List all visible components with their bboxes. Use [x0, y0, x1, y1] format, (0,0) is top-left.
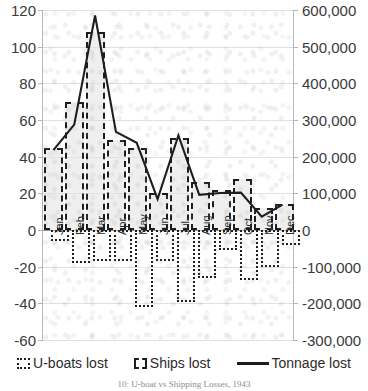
axis-tick: [293, 303, 298, 304]
axis-tick: [293, 120, 298, 121]
right-axis: 600,000500,000400,000300,000200,000100,0…: [298, 0, 368, 348]
left-axis-tick-label: -60: [14, 333, 36, 348]
axis-tick: [293, 47, 298, 48]
axis-tick: [293, 157, 298, 158]
left-axis-tick-label: 100: [11, 40, 36, 55]
month-label: Jul: [180, 221, 191, 235]
left-axis-tick-label: 20: [19, 186, 36, 201]
left-axis: 120100806040200-20-40-60: [0, 0, 40, 348]
combo-chart: 120100806040200-20-40-60 600,000500,0004…: [0, 0, 368, 391]
month-label: Aug: [201, 215, 212, 235]
axis-tick: [293, 193, 298, 194]
month-label: Sep: [222, 215, 233, 235]
right-axis-tick-label: -100,000: [302, 260, 361, 275]
figure-caption: 10: U-boat vs Shipping Losses, 1943: [0, 379, 368, 390]
right-axis-tick-label: -300,000: [302, 333, 361, 348]
dashed-square-icon: [134, 358, 147, 369]
gridline: [43, 340, 293, 341]
month-label: Apr: [117, 218, 128, 235]
right-axis-tick-label: 500,000: [302, 40, 356, 55]
right-axis-tick-label: 300,000: [302, 113, 356, 128]
month-label: Mar: [96, 216, 107, 235]
legend-label-uboats-lost: U-boats lost: [33, 356, 108, 370]
axis-tick: [293, 10, 298, 11]
legend-item-uboats-lost: U-boats lost: [17, 356, 108, 370]
solid-line-icon: [237, 362, 269, 365]
left-axis-tick-label: -20: [14, 260, 36, 275]
chart-legend: U-boats lost Ships lost Tonnage lost: [0, 352, 368, 374]
month-label: May: [138, 214, 149, 235]
plot-area: JanFebMarAprMayJunJulAugSepOctNovDec: [42, 10, 294, 340]
axis-tick: [293, 83, 298, 84]
month-label: Jan: [54, 217, 65, 235]
legend-label-ships-lost: Ships lost: [150, 356, 211, 370]
month-label: Feb: [75, 216, 86, 235]
right-axis-tick-label: -200,000: [302, 296, 361, 311]
axis-tick: [293, 267, 298, 268]
month-label: Dec: [285, 215, 296, 235]
tonnage-lost-line: [43, 10, 293, 337]
legend-item-ships-lost: Ships lost: [134, 356, 211, 370]
left-axis-tick-label: 120: [11, 3, 36, 18]
month-label: Oct: [243, 218, 254, 235]
axis-tick: [38, 340, 43, 341]
axis-tick: [293, 340, 298, 341]
left-axis-tick-label: 40: [19, 150, 36, 165]
month-label: Jun: [159, 217, 170, 235]
dotted-square-icon: [17, 358, 30, 369]
right-axis-tick-label: 400,000: [302, 76, 356, 91]
legend-item-tonnage-lost: Tonnage lost: [237, 356, 351, 370]
right-axis-tick-label: 200,000: [302, 150, 356, 165]
left-axis-tick-label: -40: [14, 296, 36, 311]
left-axis-tick-label: 0: [28, 223, 36, 238]
right-axis-tick-label: 0: [302, 223, 310, 238]
legend-label-tonnage-lost: Tonnage lost: [272, 356, 351, 370]
month-label: Nov: [264, 215, 275, 235]
left-axis-tick-label: 60: [19, 113, 36, 128]
right-axis-tick-label: 600,000: [302, 3, 356, 18]
right-axis-tick-label: 100,000: [302, 186, 356, 201]
left-axis-tick-label: 80: [19, 76, 36, 91]
